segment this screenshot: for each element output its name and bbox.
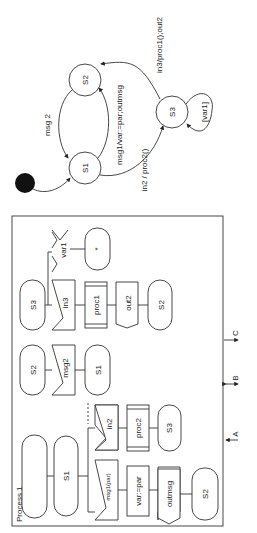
svg-text:S3: S3 xyxy=(29,300,38,310)
svg-text:S3: S3 xyxy=(168,107,177,117)
svg-text:var1: var1 xyxy=(59,242,68,258)
task-proc1: proc1 xyxy=(85,282,107,328)
svg-text:B: B xyxy=(231,375,240,380)
state-s2-next: S2 xyxy=(192,468,218,520)
svg-text:in2: in2 xyxy=(105,418,114,429)
transition-s2-s1 xyxy=(59,90,72,158)
sdl-diagram: S1 S2 S3 msg 2 msg1/var:=par;outmsg in2 … xyxy=(0,0,257,533)
asterisk-state: * xyxy=(85,228,110,270)
svg-text:[var1]: [var1] xyxy=(200,102,209,122)
svg-text:C: C xyxy=(231,330,240,336)
svg-text:S2: S2 xyxy=(201,489,210,499)
svg-text:S1: S1 xyxy=(81,163,90,173)
task-proc2: proc2 xyxy=(127,405,149,451)
svg-text:msg2: msg2 xyxy=(61,358,70,378)
state-machine: S1 S2 S3 msg 2 msg1/var:=par;outmsg in2 … xyxy=(15,16,212,193)
svg-text:out2: out2 xyxy=(124,295,133,311)
state-s3-symbol: S3 xyxy=(20,280,45,330)
state-s2-after-out2: S2 xyxy=(148,280,172,330)
svg-text:S2: S2 xyxy=(157,300,166,310)
transition-s3-s2 xyxy=(101,62,160,99)
input-in3: in3 xyxy=(52,280,75,330)
save-var1: var1 xyxy=(52,230,68,272)
signal-arrows: A B C xyxy=(224,330,240,440)
svg-text:in3: in3 xyxy=(61,297,70,308)
output-out2: out2 xyxy=(116,282,138,328)
start-state xyxy=(22,435,47,518)
state-s2-symbol: S2 xyxy=(20,345,45,395)
state-s3-next: S3 xyxy=(158,405,181,451)
state-s1-symbol: S1 xyxy=(54,436,78,516)
svg-text:S2: S2 xyxy=(29,365,38,375)
svg-text:outmsg: outmsg xyxy=(165,481,174,507)
svg-text:in3/proc1();out2: in3/proc1();out2 xyxy=(155,16,164,73)
initial-state-dot xyxy=(15,173,35,193)
initial-transition xyxy=(33,178,70,192)
input-msg2: msg2 xyxy=(52,345,75,395)
svg-text:msg1(par): msg1(par) xyxy=(105,473,111,500)
state-s2: S2 xyxy=(69,64,101,96)
task-var-par: var:=par xyxy=(127,466,149,516)
svg-text:proc1: proc1 xyxy=(92,294,101,315)
process-diagram: Process 1 S1 in2 proc2 S3 xyxy=(12,216,240,526)
svg-text:in2 / proc2(): in2 / proc2() xyxy=(140,148,149,191)
svg-text:S2: S2 xyxy=(81,75,90,85)
svg-text:proc2: proc2 xyxy=(134,417,143,438)
input-in2: in2 xyxy=(95,405,118,450)
svg-text:*: * xyxy=(93,247,102,250)
state-s1: S1 xyxy=(69,152,101,184)
svg-text:S1: S1 xyxy=(94,365,103,375)
svg-text:var:=par: var:=par xyxy=(134,476,143,506)
state-s3: S3 xyxy=(156,96,188,128)
svg-text:S1: S1 xyxy=(62,471,71,481)
svg-text:S3: S3 xyxy=(165,423,174,433)
transition-s1-s3 xyxy=(100,126,163,176)
output-outmsg: outmsg xyxy=(158,467,180,524)
svg-text:msg1/var:=par;outmsg: msg1/var:=par;outmsg xyxy=(115,85,124,165)
svg-text:msg 2: msg 2 xyxy=(43,114,52,136)
state-s1-next: S1 xyxy=(85,345,110,395)
transition-s1-s2 xyxy=(98,88,109,158)
svg-text:A: A xyxy=(231,431,240,437)
input-msg1: msg1(par) xyxy=(95,460,118,520)
